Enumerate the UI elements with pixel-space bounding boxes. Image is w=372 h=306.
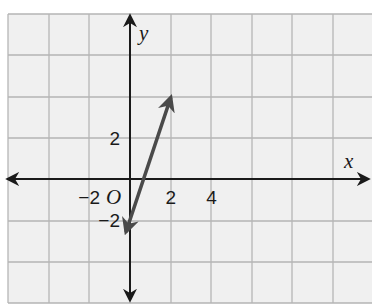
x-tick-label: 4 xyxy=(206,187,217,208)
x-axis-label: x xyxy=(343,149,354,173)
coordinate-graph: x y O −224 2−2 xyxy=(0,0,372,306)
plot-background xyxy=(8,14,372,303)
y-tick-label: 2 xyxy=(109,128,120,149)
x-tick-label: −2 xyxy=(78,187,100,208)
y-axis-label: y xyxy=(137,21,149,45)
x-tick-label: 2 xyxy=(166,187,177,208)
y-tick-label: −2 xyxy=(98,210,120,231)
origin-label: O xyxy=(106,185,121,209)
